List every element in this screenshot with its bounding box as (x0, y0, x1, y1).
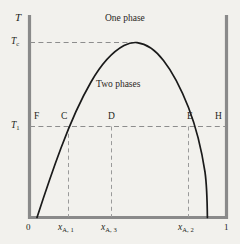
x-tick-xa1-sub: A, 1 (62, 226, 74, 233)
y-tick-label-t1: T1 (11, 121, 20, 131)
point-label-h: H (215, 112, 222, 122)
y-tick-tc-sub: c (16, 40, 19, 47)
y-axis-title: T (15, 12, 21, 23)
x-tick-zero-main: 0 (26, 222, 31, 232)
x-tick-one-main: 1 (224, 222, 229, 232)
region-label-two-phases: Two phases (96, 80, 140, 90)
x-tick-xa2-sub: A, 2 (182, 226, 194, 233)
x-tick-label-xa1: xA, 1 (58, 223, 74, 233)
axis-frame (28, 15, 228, 219)
composition-drop-lines (69, 127, 189, 218)
x-tick-label-one: 1 (224, 223, 229, 232)
point-label-d: D (108, 112, 115, 122)
x-tick-label-xa2: xA, 2 (178, 223, 194, 233)
phase-diagram-figure: T Tc T1 One phase Two phases F C D E H 0… (0, 0, 240, 244)
phase-diagram-svg (0, 0, 240, 244)
y-tick-t1-sub: 1 (16, 124, 19, 131)
point-label-f: F (34, 112, 39, 122)
point-label-c: C (61, 112, 67, 122)
region-label-one-phase: One phase (105, 14, 145, 24)
coexistence-curve (37, 43, 207, 218)
y-tick-label-tc: Tc (11, 37, 19, 47)
x-tick-label-zero: 0 (26, 223, 31, 232)
x-tick-label-xa3: xA, 3 (101, 223, 117, 233)
x-tick-xa3-sub: A, 3 (105, 226, 117, 233)
point-label-e: E (187, 112, 193, 122)
